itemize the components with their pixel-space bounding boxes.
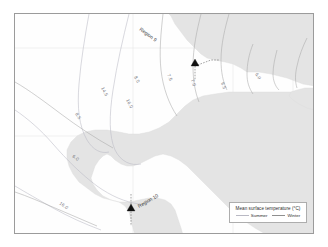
legend: Mean surface temperature (°C) Summer Win… — [229, 202, 307, 223]
legend-series-list: Summer Winter — [233, 213, 303, 218]
contour-label: 7.0 — [190, 79, 197, 87]
legend-item-winter: Winter — [272, 213, 300, 218]
legend-label-summer: Summer — [251, 213, 268, 218]
contour-label: 6.0 — [254, 72, 262, 81]
contour-label: 16.0 — [58, 201, 69, 211]
legend-line-swatch-winter — [272, 215, 285, 216]
map-frame: 8.5 14.5 16.0 8.0 7.5 7.0 6.5 6.0 6.0 16… — [14, 13, 314, 234]
region-label: Region 9 — [138, 26, 158, 43]
legend-item-summer: Summer — [236, 213, 268, 218]
landmass-shape — [67, 14, 314, 234]
contour-map-svg: 8.5 14.5 16.0 8.0 7.5 7.0 6.5 6.0 6.0 16… — [15, 14, 314, 234]
summer-contours — [15, 14, 141, 230]
contour-label: 8.5 — [74, 112, 82, 121]
contour-label: 14.5 — [100, 86, 109, 97]
legend-label-winter: Winter — [287, 213, 300, 218]
legend-title: Mean surface temperature (°C) — [233, 205, 303, 212]
figure-canvas: 8.5 14.5 16.0 8.0 7.5 7.0 6.5 6.0 6.0 16… — [0, 0, 328, 247]
contour-label: 8.0 — [133, 75, 141, 84]
triangle-marker — [191, 59, 199, 66]
contour-label: 7.5 — [166, 73, 174, 82]
legend-line-swatch-summer — [236, 215, 249, 216]
